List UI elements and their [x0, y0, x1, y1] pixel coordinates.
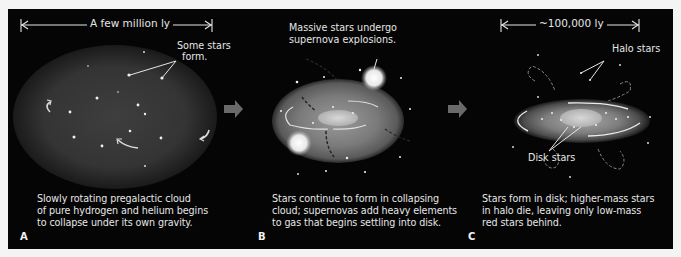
panel-letter-b: B	[258, 231, 266, 242]
pregalactic-cloud	[13, 45, 217, 189]
annotation-some-stars-2: form.	[182, 51, 207, 62]
panel-b-art	[272, 59, 411, 175]
caption-c-line-3: red stars behind.	[482, 217, 562, 229]
panel-letter-a: A	[20, 231, 28, 242]
caption-a-line-1: Slowly rotating pregalactic cloud	[37, 193, 191, 205]
annotation-some-stars-1: Some stars	[177, 40, 231, 51]
caption-a-line-2: of pure hydrogen and helium begins	[37, 205, 208, 217]
scale-label-c: ~100,000 ly	[536, 17, 607, 29]
caption-c-line-2: in halo die, leaving only low-mass	[482, 205, 641, 217]
annotation-massive-stars-1: Massive stars undergo	[289, 22, 397, 33]
panel-letter-c: C	[468, 231, 475, 242]
scale-label-a: A few million ly	[87, 17, 173, 29]
supernova-2	[286, 130, 312, 156]
galaxy-formation-diagram: A few million ly Some stars form. Slowly…	[8, 9, 673, 249]
annotation-disk-stars: Disk stars	[528, 152, 575, 163]
caption-a-line-3: to collapse under its own gravity.	[37, 217, 193, 229]
caption-b-line-2: cloud; supernovas add heavy elements	[272, 205, 457, 217]
caption-b-line-3: to gas that begins settling into disk.	[272, 217, 441, 229]
caption-b-line-1: Stars continue to form in collapsing	[272, 193, 439, 205]
arrow-b-to-c	[448, 100, 467, 118]
arrow-a-to-b	[224, 100, 243, 118]
caption-c-line-1: Stars form in disk; higher-mass stars	[482, 193, 654, 205]
annotation-massive-stars-2: supernova explosions.	[289, 34, 396, 45]
annotation-halo-stars: Halo stars	[612, 43, 660, 54]
central-bulge-b	[318, 110, 358, 126]
